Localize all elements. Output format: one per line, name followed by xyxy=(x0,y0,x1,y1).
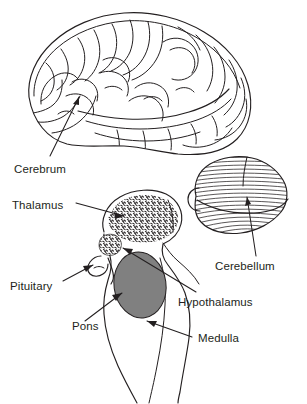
label-pituitary: Pituitary xyxy=(10,280,53,292)
label-pons: Pons xyxy=(72,320,99,332)
label-hypothalamus: Hypothalamus xyxy=(178,296,253,308)
brain-anatomy-figure: Cerebrum xyxy=(0,0,307,404)
label-thalamus: Thalamus xyxy=(12,199,63,211)
label-medulla: Medulla xyxy=(198,332,239,344)
hypothalamus-region xyxy=(99,234,121,255)
brain-diagram-canvas: Cerebrum xyxy=(0,0,307,404)
label-cerebellum: Cerebellum xyxy=(215,260,275,272)
label-cerebrum: Cerebrum xyxy=(14,163,66,175)
